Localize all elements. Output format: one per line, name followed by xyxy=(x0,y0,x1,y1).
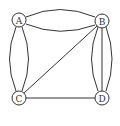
graph-diagram: A B C D xyxy=(0,0,120,126)
node-b: B xyxy=(95,14,109,28)
edge-b-d-right xyxy=(106,27,112,91)
edge-a-b-lower xyxy=(26,24,95,31)
node-a-label: A xyxy=(15,16,23,26)
node-c: C xyxy=(12,91,26,105)
node-d: D xyxy=(95,91,109,105)
edge-b-c-diagonal xyxy=(24,26,97,93)
node-a: A xyxy=(12,13,26,27)
edge-a-b-upper xyxy=(26,10,95,18)
node-d-label: D xyxy=(98,94,105,104)
node-c-label: C xyxy=(16,94,23,104)
graph-canvas: A B C D xyxy=(0,0,120,126)
edge-b-d-left xyxy=(92,27,99,91)
edge-a-c-right xyxy=(22,27,29,91)
node-b-label: B xyxy=(99,17,106,27)
edge-a-c-left xyxy=(10,27,17,91)
